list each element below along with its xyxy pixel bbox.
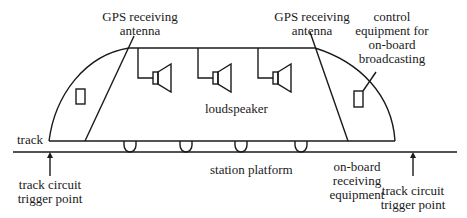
gps-left-line2: antenna [100,24,180,38]
trigger-left-arrow-icon [47,152,53,176]
receiver-line1: on-board [322,160,392,174]
speaker-1-icon [138,48,171,92]
wheel-icon [124,141,136,152]
trigger-right-label: track circuit trigger point [373,184,453,212]
station-platform-label: station platform [210,163,293,177]
window-left-icon [76,89,85,104]
gps-left-line1: GPS receiving [100,10,180,24]
trigger-left-line2: trigger point [10,192,90,206]
gps-right-line2: antenna [272,24,352,38]
gps-right-line1: GPS receiving [272,10,352,24]
control-equipment-label: control equipment for on-board broadcast… [352,10,432,66]
trigger-right-arrow-icon [410,152,416,176]
gps-right-label: GPS receiving antenna [272,10,352,38]
gps-left-leader [85,36,134,141]
loudspeaker-label: loudspeaker [205,102,268,116]
wheel-icon [180,141,192,152]
gps-left-label: GPS receiving antenna [100,10,180,38]
wheel-icon [295,141,307,152]
wheel-icon [235,141,247,152]
trigger-left-label: track circuit trigger point [10,178,90,206]
gps-right-leader [310,32,348,141]
control-line1: control [352,10,432,24]
trigger-right-line2: trigger point [373,198,453,212]
speaker-3-icon [258,48,291,92]
trigger-left-line1: track circuit [10,178,90,192]
speaker-2-icon [198,48,231,92]
control-line4: broadcasting [352,52,432,66]
track-label: track [17,133,43,147]
control-equipment-box-icon [354,91,363,107]
train-broadcast-diagram: GPS receiving antenna GPS receiving ante… [0,0,467,218]
control-line3: on-board [352,38,432,52]
control-line2: equipment for [352,24,432,38]
trigger-right-line1: track circuit [373,184,453,198]
control-leader [363,72,376,91]
